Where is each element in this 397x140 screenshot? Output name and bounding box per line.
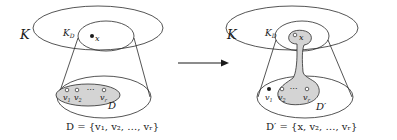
label-x: x bbox=[95, 34, 100, 43]
label-kd: KD bbox=[62, 28, 75, 39]
outer-region-k bbox=[33, 6, 163, 50]
point-x-hollow bbox=[293, 33, 297, 37]
vertex-v2 bbox=[75, 88, 79, 92]
transform-arrow bbox=[178, 60, 229, 67]
vertex-v2-right bbox=[280, 87, 284, 91]
caption-left: D = {v₁, v₂, …, vᵣ} bbox=[66, 121, 159, 132]
arrow-head-icon bbox=[221, 60, 229, 67]
left-figure: K KD x v1 v2 ⋯ vr D D = {v₁, v₂, …, vᵣ} bbox=[19, 6, 163, 132]
right-figure: K KD x v1 v2 ⋯ vr D′ D′ = {x, v₂, …, vᵣ} bbox=[226, 6, 358, 132]
label-k: K bbox=[19, 27, 31, 42]
vertex-v1 bbox=[65, 88, 69, 92]
point-x-filled bbox=[90, 34, 94, 38]
vertex-vr bbox=[102, 88, 106, 92]
label-kd-right: KD bbox=[264, 28, 277, 39]
cone-right-side bbox=[134, 38, 150, 97]
cone-right-side-right bbox=[328, 40, 352, 97]
label-x-right: x bbox=[299, 33, 304, 42]
label-v1-right: v1 bbox=[265, 93, 273, 103]
disc-kd bbox=[78, 21, 134, 51]
label-d: D bbox=[107, 100, 116, 111]
label-d-prime: D′ bbox=[315, 101, 327, 112]
label-k-right: K bbox=[226, 27, 238, 42]
diagram-canvas: K KD x v1 v2 ⋯ vr D D = {v₁, v₂, …, vᵣ} … bbox=[0, 0, 397, 140]
vertex-vr-right bbox=[305, 87, 309, 91]
caption-right: D′ = {x, v₂, …, vᵣ} bbox=[266, 121, 357, 132]
ellipsis-left: ⋯ bbox=[86, 85, 94, 94]
ellipsis-right: ⋯ bbox=[289, 84, 297, 93]
vertex-v1-filled bbox=[267, 87, 271, 91]
